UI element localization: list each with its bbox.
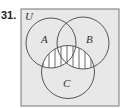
set-label-a: A — [40, 33, 48, 45]
universe-label: U — [25, 10, 34, 22]
venn-diagram: U A B C — [0, 0, 123, 108]
set-label-c: C — [63, 77, 71, 89]
set-label-b: B — [86, 33, 93, 45]
